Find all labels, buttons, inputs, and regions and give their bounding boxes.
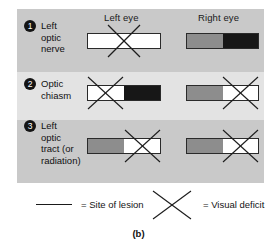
field-half-nasal <box>187 34 223 48</box>
row-label-text-2: Optic chiasm <box>41 78 71 101</box>
visual-field-bar-row1-right-eye <box>186 33 259 49</box>
visual-field-bar-row1-left-eye <box>87 33 161 49</box>
field-half-nasal <box>187 86 223 100</box>
field-half-nasal <box>187 139 223 153</box>
row-label-line: tract (or <box>41 143 81 155</box>
visual-field-bar-row3-left-eye <box>87 138 161 154</box>
row-number-badge-1: 1 <box>24 20 36 32</box>
row-label-line: optic <box>41 132 81 144</box>
field-half-temporal <box>124 139 160 153</box>
row-label-line: nerve <box>41 43 65 55</box>
row-label-line: Optic <box>41 78 71 90</box>
field-half-temporal <box>223 139 259 153</box>
visual-field-bar-row3-right-eye <box>186 138 259 154</box>
column-header-left-eye: Left eye <box>104 12 139 23</box>
field-half-nasal <box>88 86 124 100</box>
column-header-right-eye: Right eye <box>198 12 239 23</box>
figure-caption: (b) <box>0 228 277 239</box>
x-cross-icon-legend <box>152 190 192 224</box>
field-half-temporal <box>124 34 160 48</box>
horizontal-line-icon <box>36 204 72 205</box>
field-half-temporal <box>223 86 259 100</box>
row-label-2: 2 Optic chiasm <box>24 78 71 101</box>
visual-field-bar-row2-left-eye <box>87 85 161 101</box>
row-label-text-3: Left optic tract (or radiation) <box>41 120 81 166</box>
legend-label-site-of-lesion: = Site of lesion <box>81 199 144 210</box>
row-number-badge-3: 3 <box>24 120 36 132</box>
row-label-line: optic <box>41 32 65 44</box>
row-label-text-1: Left optic nerve <box>41 20 65 55</box>
row-label-1: 1 Left optic nerve <box>24 20 65 55</box>
row-label-line: Left <box>41 20 65 32</box>
row-number-badge-2: 2 <box>24 78 36 90</box>
visual-field-defects-figure: Left eye Right eye 1 Left optic nerve 2 … <box>0 0 277 249</box>
field-half-nasal <box>88 34 124 48</box>
field-half-temporal <box>124 86 160 100</box>
legend-label-visual-deficit: = Visual deficit <box>203 199 264 210</box>
legend: = Site of lesion = Visual deficit <box>0 188 277 224</box>
row-label-line: radiation) <box>41 155 81 167</box>
field-half-temporal <box>223 34 259 48</box>
field-half-nasal <box>88 139 124 153</box>
visual-field-bar-row2-right-eye <box>186 85 259 101</box>
row-label-line: chiasm <box>41 90 71 102</box>
row-label-line: Left <box>41 120 81 132</box>
row-label-3: 3 Left optic tract (or radiation) <box>24 120 81 166</box>
